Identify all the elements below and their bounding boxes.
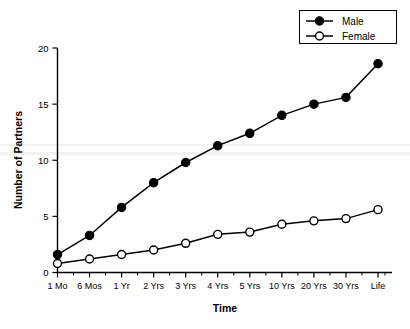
data-point	[150, 246, 158, 254]
legend-label: Female	[342, 31, 376, 42]
data-point	[310, 100, 318, 108]
x-axis-ticks	[58, 273, 386, 278]
data-point	[342, 93, 350, 101]
data-series-layer	[53, 60, 382, 268]
scan-artifact	[0, 144, 410, 155]
data-point	[86, 255, 94, 263]
data-point	[149, 179, 157, 187]
x-axis-title: Time	[213, 302, 237, 314]
data-point	[85, 231, 93, 239]
chart-legend[interactable]: MaleFemale	[300, 11, 397, 44]
series-line	[58, 64, 379, 255]
x-tick-label: 10 Yrs	[269, 281, 295, 291]
line-chart: 05101520 1 Mo6 Mos1 Yr2 Yrs3 Yrs4 Yrs5 Y…	[0, 0, 410, 329]
data-point	[53, 250, 61, 258]
legend-marker	[315, 17, 323, 25]
data-point	[246, 228, 254, 236]
x-axis-tick-labels: 1 Mo6 Mos1 Yr2 Yrs3 Yrs4 Yrs5 Yrs10 Yrs2…	[47, 281, 385, 291]
data-point	[310, 217, 318, 225]
y-axis-tick-labels: 05101520	[38, 43, 49, 279]
x-tick-label: 4 Yrs	[207, 281, 228, 291]
data-point	[246, 129, 254, 137]
data-point	[342, 215, 350, 223]
plot-axes	[58, 48, 393, 273]
data-point	[278, 111, 286, 119]
y-tick-label: 20	[38, 43, 49, 54]
data-point	[374, 60, 382, 68]
data-point	[278, 220, 286, 228]
x-tick-label: 6 Mos	[77, 281, 102, 291]
series-female	[54, 206, 383, 268]
data-point	[182, 158, 190, 166]
data-point	[182, 239, 190, 247]
series-male	[53, 60, 382, 259]
chart-canvas: 05101520 1 Mo6 Mos1 Yr2 Yrs3 Yrs4 Yrs5 Y…	[0, 0, 410, 329]
y-tick-label: 10	[38, 155, 49, 166]
data-point	[374, 206, 382, 214]
data-point	[117, 203, 125, 211]
data-point	[214, 141, 222, 149]
x-tick-label: 1 Mo	[47, 281, 67, 291]
data-point	[54, 260, 62, 268]
x-tick-label: 30 Yrs	[333, 281, 359, 291]
y-tick-label: 0	[43, 267, 48, 278]
x-tick-label: 3 Yrs	[175, 281, 196, 291]
legend-label: Male	[342, 16, 364, 27]
x-tick-label: 2 Yrs	[143, 281, 164, 291]
x-tick-label: 20 Yrs	[301, 281, 327, 291]
x-tick-label: Life	[371, 281, 386, 291]
data-point	[118, 251, 126, 259]
x-tick-label: 1 Yr	[113, 281, 129, 291]
y-axis-ticks	[53, 48, 58, 273]
data-point	[214, 230, 222, 238]
legend-marker	[316, 32, 324, 40]
y-tick-label: 5	[43, 211, 48, 222]
x-tick-label: 5 Yrs	[239, 281, 260, 291]
y-axis-title: Number of Partners	[12, 111, 24, 209]
y-tick-label: 15	[38, 99, 49, 110]
